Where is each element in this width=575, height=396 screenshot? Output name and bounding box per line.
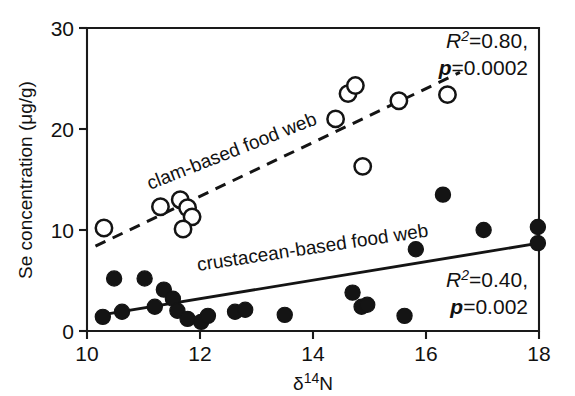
data-point [107,271,122,286]
y-tick-label-10: 10 [51,219,74,242]
crust-r2-value: 0.40, [481,268,528,291]
crustacean-stats-annotation: R2=0.40, p=0.002 [446,267,528,318]
clam-r-symbol: R [446,29,461,52]
data-point [530,219,545,234]
data-point [238,302,253,317]
clam-p-text: p=0.0002 [438,56,528,79]
data-point [114,304,129,319]
plot-canvas: 0 10 20 30 10 12 14 16 18 δ14N Se concen… [0,0,575,396]
crust-r-superscript: 2 [460,267,469,283]
clam-stats-annotation: R2=0.80, p=0.0002 [438,28,528,79]
crust-r2-equals: = [469,268,481,291]
x-axis-title-N: N [319,373,333,394]
crust-p-symbol: p [449,295,463,318]
crust-p-equals: = [463,295,475,318]
y-tick-label-0: 0 [62,320,74,343]
crust-r-symbol: R [446,268,461,291]
x-tick-label-14: 14 [301,342,325,365]
clam-p-symbol: p [438,56,452,79]
data-point [277,307,292,322]
data-point [200,308,215,323]
clam-data-points [96,77,456,237]
data-point [435,187,450,202]
x-tick-label-18: 18 [527,342,550,365]
crust-r2-text: R2=0.40, [446,267,528,291]
x-tick-label-16: 16 [414,342,437,365]
data-point [347,77,363,93]
data-point [355,158,371,174]
data-point [476,222,491,237]
data-point [391,93,407,109]
clam-r-superscript: 2 [460,28,469,44]
clam-p-equals: = [452,56,464,79]
x-tick-label-12: 12 [188,342,211,365]
data-point [327,111,343,127]
clam-r2-value: 0.80, [481,29,528,52]
crust-p-value: 0.002 [475,295,528,318]
crust-p-text: p=0.002 [449,295,528,318]
scatter-plot-figure: 0 10 20 30 10 12 14 16 18 δ14N Se concen… [0,0,575,396]
data-point [147,299,162,314]
x-tick-label-10: 10 [75,342,98,365]
y-axis-ticks [79,28,87,331]
clam-r2-equals: = [469,29,481,52]
data-point [408,242,423,257]
y-tick-label-30: 30 [51,17,74,40]
y-tick-label-20: 20 [51,118,74,141]
data-point [175,221,191,237]
clam-r2-text: R2=0.80, [446,28,528,52]
data-point [360,297,375,312]
y-axis-title: Se concentration (μg/g) [15,81,36,279]
data-point [180,311,195,326]
data-point [345,285,360,300]
data-point [152,199,168,215]
x-axis-title-delta: δ [293,373,304,394]
data-point [530,236,545,251]
y-axis-tick-labels: 0 10 20 30 [51,17,74,343]
x-axis-title-superscript: 14 [304,370,320,386]
data-point [95,309,110,324]
x-axis-tick-labels: 10 12 14 16 18 [75,342,550,365]
data-point [439,86,455,102]
clam-p-value: 0.0002 [464,56,528,79]
x-axis-title: δ14N [293,370,333,394]
data-point [137,271,152,286]
data-point [397,308,412,323]
x-axis-ticks [87,331,539,339]
data-point [96,220,112,236]
